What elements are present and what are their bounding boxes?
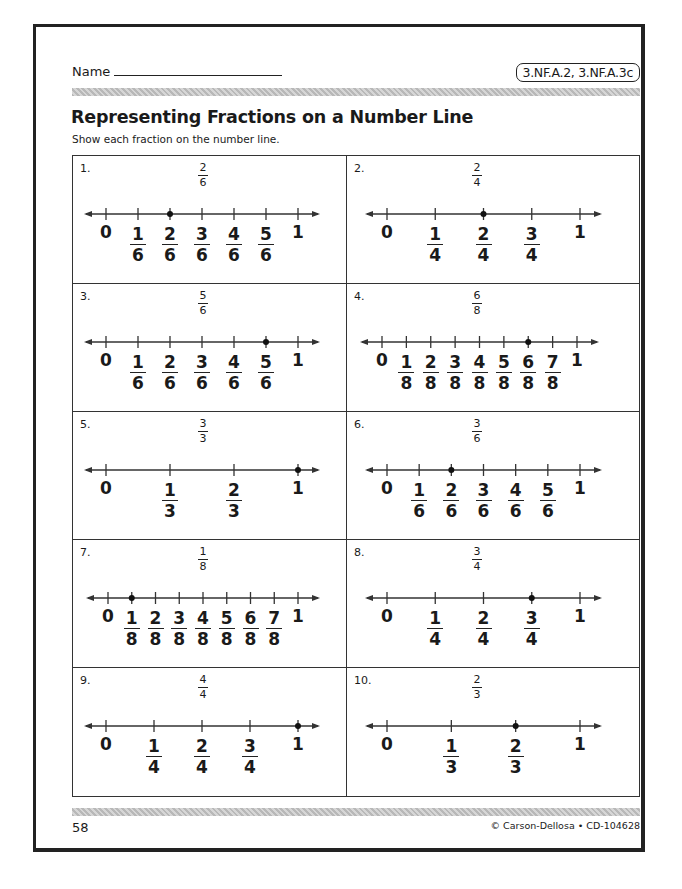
tick-label-one: 1 — [292, 224, 304, 241]
tick-label-fraction: 34 — [524, 226, 540, 264]
name-input-line[interactable] — [114, 65, 282, 76]
right-arrow-icon — [312, 467, 320, 473]
marked-point-dot — [448, 467, 454, 473]
tick-label-fraction: 24 — [476, 226, 492, 264]
left-arrow-icon — [365, 211, 373, 217]
left-arrow-icon — [84, 723, 92, 729]
tick-denominator: 6 — [542, 503, 554, 520]
number-line[interactable] — [73, 668, 347, 794]
tick-denominator: 6 — [196, 247, 208, 264]
tick-numerator: 5 — [260, 354, 272, 371]
tick-numerator: 2 — [478, 226, 490, 243]
number-line[interactable] — [347, 156, 641, 282]
problem-cell: 8.3401424341 — [347, 540, 639, 668]
tick-label-zero: 0 — [376, 352, 388, 369]
problem-cell: 4.680182838485868781 — [347, 284, 639, 412]
tick-denominator: 8 — [245, 631, 257, 648]
tick-numerator: 6 — [522, 354, 534, 371]
right-arrow-icon — [312, 339, 320, 345]
tick-label-fraction: 16 — [411, 482, 427, 520]
tick-label-fraction: 36 — [194, 226, 210, 264]
footer-divider — [72, 808, 640, 816]
tick-value: 1 — [292, 352, 304, 369]
tick-denominator: 8 — [498, 375, 510, 392]
instructions: Show each fraction on the number line. — [72, 133, 280, 145]
tick-label-fraction: 58 — [496, 354, 512, 392]
tick-label-fraction: 13 — [443, 738, 459, 776]
tick-value: 1 — [574, 736, 586, 753]
tick-label-fraction: 56 — [540, 482, 556, 520]
tick-numerator: 4 — [197, 610, 209, 627]
right-arrow-icon — [594, 723, 602, 729]
number-line[interactable] — [347, 412, 641, 538]
tick-numerator: 2 — [510, 738, 522, 755]
tick-label-fraction: 24 — [476, 610, 492, 648]
tick-numerator: 3 — [196, 354, 208, 371]
problem-cell: 10.23013231 — [347, 668, 639, 796]
problem-cell: 3.56016263646561 — [73, 284, 347, 412]
tick-denominator: 6 — [196, 375, 208, 392]
marked-point-dot — [525, 339, 531, 345]
number-line[interactable] — [73, 156, 347, 282]
standards-badge: 3.NF.A.2, 3.NF.A.3c — [516, 63, 641, 82]
tick-numerator: 2 — [478, 610, 490, 627]
tick-label-fraction: 18 — [124, 610, 140, 648]
tick-value: 0 — [100, 224, 112, 241]
tick-label-zero: 0 — [381, 480, 393, 497]
tick-label-fraction: 46 — [226, 354, 242, 392]
tick-denominator: 4 — [244, 759, 256, 776]
tick-numerator: 2 — [425, 354, 437, 371]
problem-cell: 9.4401424341 — [73, 668, 347, 796]
tick-label-fraction: 68 — [520, 354, 536, 392]
tick-denominator: 8 — [150, 631, 162, 648]
tick-value: 0 — [381, 736, 393, 753]
tick-label-fraction: 36 — [476, 482, 492, 520]
tick-label-fraction: 46 — [508, 482, 524, 520]
marked-point-dot — [513, 723, 519, 729]
tick-denominator: 8 — [449, 375, 461, 392]
tick-denominator: 8 — [522, 375, 534, 392]
tick-numerator: 1 — [148, 738, 160, 755]
tick-value: 1 — [571, 352, 583, 369]
tick-value: 0 — [376, 352, 388, 369]
tick-label-zero: 0 — [100, 224, 112, 241]
tick-label-one: 1 — [574, 608, 586, 625]
right-arrow-icon — [312, 723, 320, 729]
tick-numerator: 7 — [547, 354, 559, 371]
tick-label-fraction: 16 — [130, 226, 146, 264]
number-line[interactable] — [347, 284, 641, 410]
tick-label-fraction: 38 — [171, 610, 187, 648]
tick-value: 0 — [100, 736, 112, 753]
number-line[interactable] — [347, 540, 641, 666]
tick-denominator: 8 — [197, 631, 209, 648]
header-divider — [72, 88, 640, 96]
tick-numerator: 1 — [429, 226, 441, 243]
right-arrow-icon — [594, 211, 602, 217]
tick-numerator: 5 — [498, 354, 510, 371]
left-arrow-icon — [84, 339, 92, 345]
tick-denominator: 8 — [173, 631, 185, 648]
tick-label-zero: 0 — [100, 736, 112, 753]
tick-label-fraction: 28 — [423, 354, 439, 392]
tick-label-one: 1 — [574, 224, 586, 241]
tick-numerator: 6 — [245, 610, 257, 627]
tick-label-fraction: 48 — [195, 610, 211, 648]
tick-numerator: 3 — [478, 482, 490, 499]
name-label: Name — [72, 64, 110, 79]
tick-numerator: 2 — [164, 226, 176, 243]
tick-denominator: 6 — [132, 375, 144, 392]
page-number: 58 — [72, 820, 89, 835]
copyright: © Carson-Dellosa • CD-104628 — [491, 820, 640, 831]
page-title: Representing Fractions on a Number Line — [71, 107, 473, 127]
number-line[interactable] — [73, 284, 347, 410]
tick-numerator: 1 — [132, 226, 144, 243]
tick-label-fraction: 78 — [545, 354, 561, 392]
number-line[interactable] — [347, 668, 641, 794]
tick-denominator: 4 — [478, 247, 490, 264]
tick-numerator: 1 — [413, 482, 425, 499]
number-line[interactable] — [73, 412, 347, 538]
tick-value: 0 — [100, 480, 112, 497]
tick-denominator: 4 — [148, 759, 160, 776]
tick-label-fraction: 34 — [242, 738, 258, 776]
tick-label-fraction: 36 — [194, 354, 210, 392]
